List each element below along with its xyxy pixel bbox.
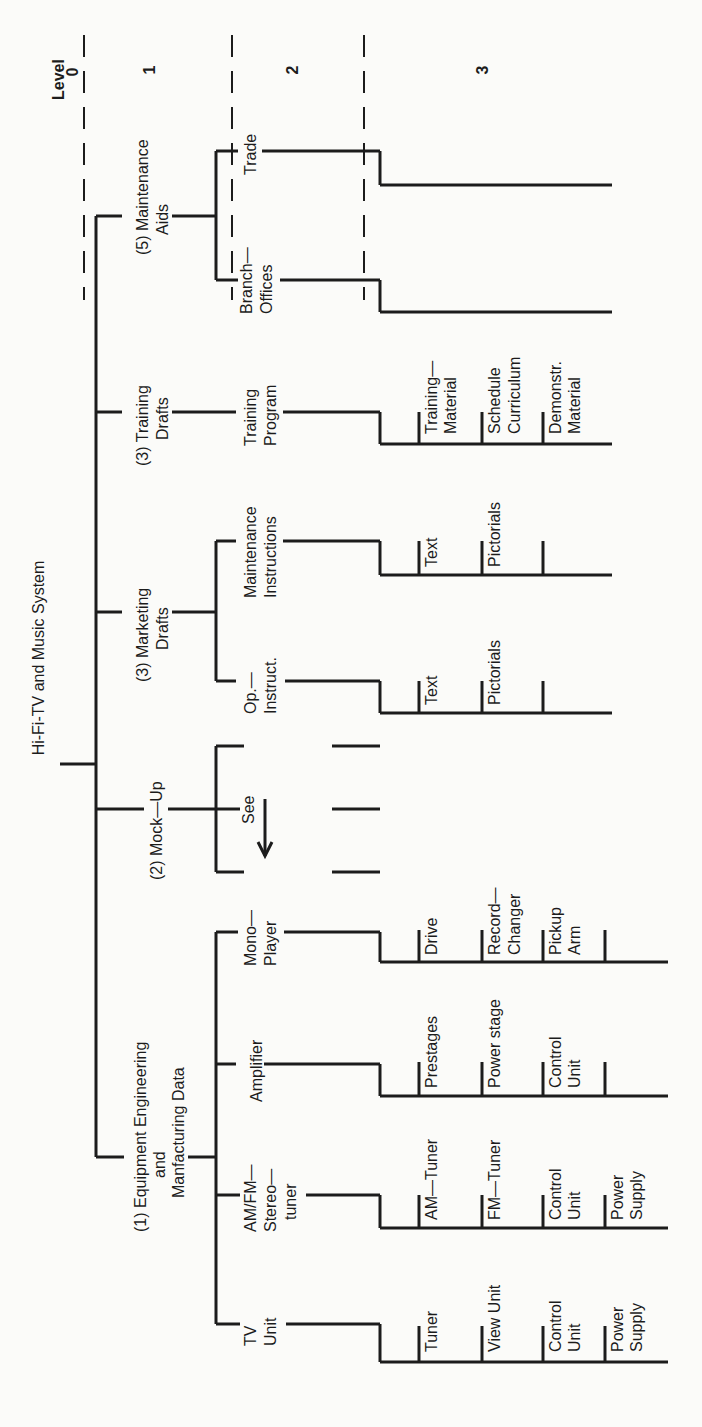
- node-label: Manfacturing Data: [170, 1067, 187, 1198]
- leaf-label: Text: [423, 537, 440, 567]
- node-label: (2) Mock—Up: [148, 781, 165, 880]
- level-3-label: 3: [474, 65, 491, 74]
- leaf-label: Material: [566, 377, 583, 434]
- leaf-label: Curriculum: [506, 357, 523, 434]
- leaf-label: Pictorials: [486, 640, 503, 705]
- node-label: (1) Equipment Engineering: [132, 1042, 149, 1232]
- leaf-label: Power: [609, 1174, 626, 1220]
- branch-equipment-engineering: (1) Equipment Engineering and Manfacturi…: [96, 887, 668, 1362]
- node-label: Maintenance: [242, 506, 259, 598]
- level-dividers: [84, 35, 364, 300]
- leaf-label: Unit: [566, 1323, 583, 1352]
- node-label: AM/FM—: [242, 1164, 259, 1232]
- node-label: and: [151, 1151, 168, 1178]
- branch-marketing-drafts: (3) Marketing Drafts Maintenance Instruc…: [96, 502, 612, 714]
- node-label: Program: [262, 385, 279, 446]
- node-label: Drafts: [154, 397, 171, 440]
- leaf-label: Record—: [486, 887, 503, 955]
- node-label: Aids: [154, 204, 171, 235]
- branch-mock-up: (2) Mock—Up See: [96, 746, 380, 880]
- leaf-label: Pickup: [547, 907, 564, 955]
- node-label: Unit: [262, 1317, 279, 1346]
- node-label: TV: [242, 1325, 259, 1346]
- node-label: Op.—: [242, 672, 259, 714]
- node-label: Training: [242, 389, 259, 446]
- node-label: Stereo—: [262, 1169, 279, 1232]
- level-labels: Level 0 1 2 3: [50, 59, 491, 100]
- see-label: See: [240, 795, 257, 824]
- leaf-label: Material: [442, 377, 459, 434]
- node-label: (3) Training: [134, 385, 151, 466]
- leaf-label: Control: [547, 1036, 564, 1088]
- leaf-label: Control: [547, 1300, 564, 1352]
- level-1-label: 1: [141, 65, 158, 74]
- leaf-label: Changer: [506, 893, 523, 955]
- leaf-label: Pictorials: [486, 502, 503, 567]
- root-node: Hi-Fi-TV and Music System: [30, 216, 96, 1157]
- node-label: Player: [262, 920, 279, 966]
- node-label: Instructions: [262, 516, 279, 598]
- node-label: Mono—: [242, 910, 259, 966]
- node-label: (3) Marketing: [134, 588, 151, 682]
- leaf-label: Supply: [628, 1303, 645, 1352]
- leaf-label: Unit: [566, 1191, 583, 1220]
- node-label: Instruct.: [262, 657, 279, 714]
- branch-maintenance-aids: (5) Maintenance Aids Trade Branch— Offic…: [96, 134, 612, 314]
- leaf-label: Schedule: [486, 367, 503, 434]
- leaf-label: Supply: [628, 1171, 645, 1220]
- node-label: Offices: [258, 265, 275, 315]
- leaf-label: Power stage: [486, 999, 503, 1088]
- leaf-label: Text: [423, 675, 440, 705]
- arrow-down-icon: [258, 799, 272, 856]
- hierarchy-diagram: Level 0 1 2 3 Hi-Fi-TV and Music System …: [0, 0, 702, 1427]
- node-label: Trade: [242, 134, 259, 175]
- leaf-label: Drive: [423, 918, 440, 955]
- node-label: Branch—: [238, 247, 255, 314]
- leaf-label: Unit: [566, 1059, 583, 1088]
- leaf-label: Arm: [566, 926, 583, 955]
- leaf-label: Training—: [423, 361, 440, 434]
- leaf-label: Tuner: [423, 1310, 440, 1352]
- leaf-label: FM—Tuner: [486, 1139, 503, 1220]
- branch-training-drafts: (3) Training Drafts Training Program Tra…: [96, 357, 612, 466]
- root-title: Hi-Fi-TV and Music System: [30, 561, 47, 756]
- node-label: tuner: [282, 1183, 299, 1220]
- leaf-label: Prestages: [423, 1016, 440, 1088]
- node-label: Amplifier: [248, 1039, 265, 1102]
- leaf-label: View Unit: [486, 1284, 503, 1352]
- leaf-label: Control: [547, 1168, 564, 1220]
- level-2-label: 2: [284, 65, 301, 74]
- node-label: Drafts: [154, 607, 171, 650]
- level-header: Level: [50, 59, 67, 100]
- node-label: (5) Maintenance: [134, 139, 151, 255]
- leaf-label: Demonstr.: [547, 361, 564, 434]
- leaf-label: Power: [609, 1306, 626, 1352]
- leaf-label: AM—Tuner: [423, 1138, 440, 1220]
- level-0-label: 0: [64, 67, 81, 76]
